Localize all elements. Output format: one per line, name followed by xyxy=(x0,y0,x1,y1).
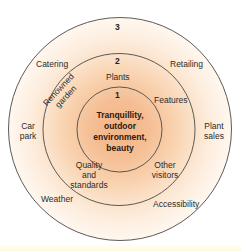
label-weather: Weather xyxy=(41,194,73,204)
label-car-park: Car park xyxy=(16,121,40,141)
label-plants: Plants xyxy=(106,72,130,82)
ring-number-1: 1 xyxy=(115,90,120,100)
layered-rings-diagram: 3 2 1 Catering Retailing Car park Plant … xyxy=(0,0,241,251)
label-retailing: Retailing xyxy=(170,59,203,69)
label-features: Features xyxy=(154,95,188,105)
ring-number-2: 2 xyxy=(115,56,120,66)
core-text: Tranquillity, outdoor environment, beaut… xyxy=(84,110,156,154)
label-catering: Catering xyxy=(36,59,68,69)
label-accessibility: Accessibility xyxy=(153,199,199,209)
label-plant-sales: Plant sales xyxy=(201,121,227,141)
ring-number-3: 3 xyxy=(115,22,120,32)
label-quality-and-standards: Quality and standards xyxy=(66,160,112,190)
label-other-visitors: Other visitors xyxy=(148,160,182,180)
